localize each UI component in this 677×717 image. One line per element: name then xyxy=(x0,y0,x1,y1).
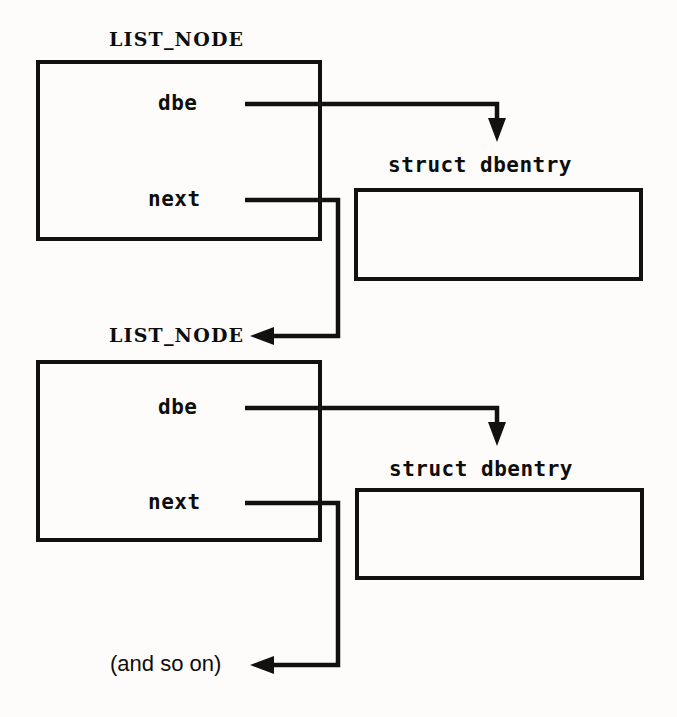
dbentry-1-box xyxy=(356,190,641,279)
dbentry-2-box xyxy=(357,490,642,578)
list-node-2-field-next: next xyxy=(148,492,201,513)
list-node-1-field-dbe: dbe xyxy=(158,93,197,114)
edge-node1-next-arrowhead xyxy=(250,327,274,345)
dbentry-1-title: struct dbentry xyxy=(388,155,572,176)
edge-node2-dbe-arrowhead xyxy=(488,422,506,446)
dbentry-2-title: struct dbentry xyxy=(389,459,573,480)
list-node-1-title: LIST_NODE xyxy=(109,30,244,49)
list-node-1-box xyxy=(38,62,320,239)
edge-node1-next-line xyxy=(245,200,338,336)
edge-node2-dbe-line xyxy=(245,408,497,428)
continuation-label: (and so on) xyxy=(110,653,221,675)
list-node-2-field-dbe: dbe xyxy=(158,397,197,418)
edge-node1-dbe-line xyxy=(245,104,497,124)
edge-node2-next-line xyxy=(245,503,338,665)
diagram-vector-layer xyxy=(0,0,677,717)
list-node-2-title: LIST_NODE xyxy=(109,326,244,345)
diagram-canvas: LIST_NODE dbe next struct dbentry LIST_N… xyxy=(0,0,677,717)
edge-node1-dbe-arrowhead xyxy=(488,118,506,142)
list-node-1-field-next: next xyxy=(148,189,201,210)
edge-node2-next-arrowhead xyxy=(250,656,274,674)
